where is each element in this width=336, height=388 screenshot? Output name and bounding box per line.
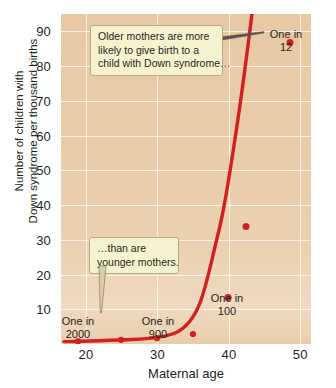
gridline-y-60 — [61, 136, 311, 137]
y-tick-20: 20 — [11, 267, 51, 282]
callout-lower-line2: younger mothers. — [97, 256, 172, 270]
gridline-x-20 — [86, 14, 87, 344]
label-one-in-12-line1: One in — [270, 28, 302, 40]
callout-upper-line2: likely to give birth to a — [98, 44, 216, 58]
label-one-in-900-line1: One in — [142, 315, 174, 327]
gridline-y-40 — [61, 205, 311, 206]
gridline-y-50 — [61, 170, 311, 171]
callout-upper-line3: child with Down syndrome… — [98, 57, 216, 71]
younger-mothers-callout: …than are younger mothers. — [89, 237, 179, 274]
gridline-x-50 — [300, 14, 301, 344]
y-axis-label-line1: Number of children with — [13, 71, 25, 192]
gridline-y-10 — [61, 309, 311, 310]
gridline-y-20 — [61, 275, 311, 276]
gridline-y-70 — [61, 101, 311, 102]
callout-lower-line1: …than are — [97, 242, 172, 256]
y-axis-label-line2: Down syndrome per thousand births — [27, 39, 39, 224]
label-one-in-100: One in 100 — [196, 292, 258, 318]
chart-figure: 90 80 70 60 50 40 30 20 10 20 30 40 50 N… — [0, 0, 336, 388]
y-tick-10: 10 — [11, 302, 51, 317]
x-axis-label: Maternal age — [61, 366, 311, 381]
x-tick-40: 40 — [209, 347, 249, 362]
x-tick-50: 50 — [280, 347, 320, 362]
label-one-in-900-line2: 900 — [149, 328, 167, 340]
label-one-in-12-line2: 12 — [280, 41, 292, 53]
older-mothers-callout: Older mothers are more likely to give bi… — [90, 25, 223, 76]
x-tick-20: 20 — [66, 347, 106, 362]
label-one-in-2000-line2: 2000 — [66, 328, 90, 340]
label-one-in-900: One in 900 — [127, 315, 189, 341]
label-one-in-2000-line1: One in — [62, 315, 94, 327]
label-one-in-2000: One in 2000 — [47, 315, 109, 341]
label-one-in-100-line2: 100 — [218, 305, 236, 317]
label-one-in-12: One in 12 — [262, 28, 310, 54]
y-axis-label: Number of children with Down syndrome pe… — [12, 6, 40, 256]
callout-upper-line1: Older mothers are more — [98, 30, 216, 44]
label-one-in-100-line1: One in — [211, 292, 243, 304]
x-tick-30: 30 — [137, 347, 177, 362]
